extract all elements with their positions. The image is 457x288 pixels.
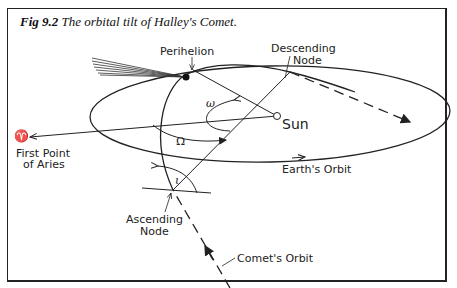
comet-nucleus-icon [183,74,190,81]
omega-capital-label: Ω [176,135,185,148]
inclination-label: ι [175,174,179,187]
omega-small-label: ω [206,97,215,110]
sun-label: Sun [282,116,309,132]
earths-orbit-label: Earth's Orbit [282,163,352,176]
aries-symbol-icon: ♈ [14,129,29,143]
perihelion-label: Perihelion [160,45,214,58]
comet-orbit-dashed-lower [173,190,230,288]
earths-orbit-arrow-icon [292,157,305,158]
ecliptic-reference-line [142,188,211,193]
comet-orbit-dashed-right [290,72,410,122]
earths-orbit-ellipse [89,63,451,165]
comet-tail-icon [92,58,185,77]
first-point-label-2: of Aries [23,158,65,171]
comets-orbit-label: Comet's Orbit [237,252,314,265]
longitude-node-arc [153,125,226,141]
comets-orbit-pointer [222,258,235,266]
ascending-node-label-2: Node [140,225,169,238]
descending-node-label-2: Node [293,54,322,67]
vernal-equinox-direction [30,116,277,137]
ascending-node-pointer [165,193,171,212]
orbit-diagram: Perihelion Descending Node Sun ♈ First P… [0,0,457,288]
sun-icon [274,113,281,120]
line-of-nodes [173,72,290,190]
comet-orbit-lower-arrow-icon [205,246,213,260]
